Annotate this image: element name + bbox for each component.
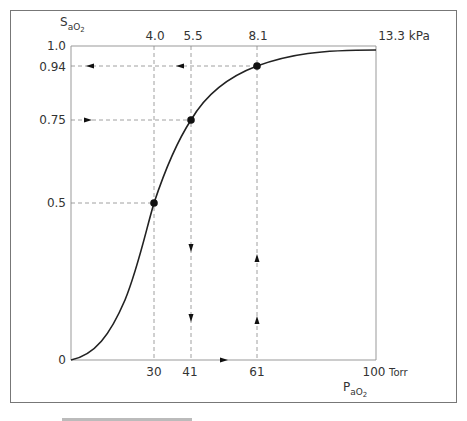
y-axis-title: SaO2 [60,15,85,34]
oxygen-dissociation-chart: 1.0 0.94 0.75 0.5 0 SaO2 4.0 5.5 8.1 13.… [0,0,467,421]
reference-lines [71,46,257,360]
arrow-up-icon [255,316,260,324]
x-axis-unit: Torr [388,367,408,378]
top-tick-8-1: 8.1 [248,29,267,43]
x-tick-41: 41 [182,365,197,379]
arrow-right-icon [84,118,92,123]
top-tick-13-3: 13.3 kPa [378,29,430,43]
dissociation-curve [71,50,376,360]
arrow-markers [84,64,260,363]
top-tick-5-5: 5.5 [183,29,202,43]
arrow-down-icon [189,244,194,252]
top-tick-4-0: 4.0 [145,29,164,43]
point-61-0-94 [253,62,261,70]
x-tick-100: 100 [363,365,386,379]
y-tick-0-75: 0.75 [39,113,66,127]
arrow-left-icon [176,64,184,69]
arrow-down-icon [189,314,194,322]
arrow-left-icon [86,64,94,69]
figure-frame [11,11,457,403]
arrow-right-icon [220,358,228,363]
y-tick-1-0: 1.0 [47,39,66,53]
y-tick-0: 0 [58,353,66,367]
point-41-0-75 [187,116,195,124]
y-tick-0-94: 0.94 [39,60,66,74]
point-30-0-5 [150,199,158,207]
x-tick-61: 61 [249,365,264,379]
arrow-up-icon [255,254,260,262]
x-axis-title: PaO2 [343,380,367,399]
x-tick-30: 30 [146,365,161,379]
marked-points [150,62,261,207]
y-tick-0-5: 0.5 [47,196,66,210]
